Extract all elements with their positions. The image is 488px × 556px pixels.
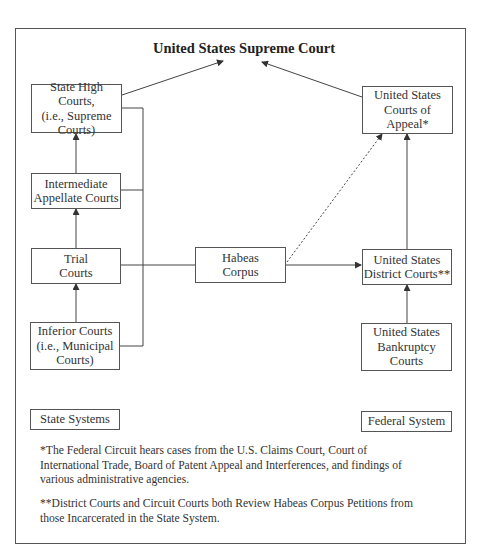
- footnote-habeas-review: **District Courts and Circuit Courts bot…: [40, 497, 420, 526]
- district-courts-box: United States District Courts**: [362, 249, 452, 285]
- courts-of-appeal-box: United States Courts of Appeal*: [362, 86, 453, 134]
- bankruptcy-courts-box: United States Bankruptcy Courts: [361, 323, 452, 371]
- supreme-court-title: United States Supreme Court: [0, 40, 488, 57]
- footnote-federal-circuit: *The Federal Circuit hears cases from th…: [40, 444, 420, 488]
- federal-system-label: Federal System: [361, 411, 452, 432]
- state-high-courts-box: State High Courts, (i.e., Supreme Courts…: [31, 84, 122, 133]
- trial-courts-box: Trial Courts: [31, 248, 121, 284]
- habeas-corpus-box: Habeas Corpus: [195, 247, 286, 283]
- intermediate-appellate-box: Intermediate Appellate Courts: [31, 173, 121, 209]
- inferior-courts-box: Inferior Courts (i.e., Municipal Courts): [30, 322, 120, 370]
- state-systems-label: State Systems: [30, 409, 120, 430]
